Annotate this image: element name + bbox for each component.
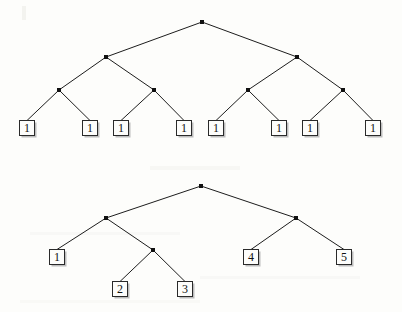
tree-leaf-node: 1 — [303, 121, 320, 138]
tree-internal-node — [151, 248, 155, 252]
tree-leaf-node: 1 — [83, 121, 100, 138]
tree-edge — [343, 90, 373, 121]
tree-internal-node — [294, 216, 298, 220]
tree-edge — [59, 90, 90, 121]
tree-edge — [59, 57, 106, 90]
tree-edge — [121, 90, 154, 121]
tree-leaf-node: 3 — [178, 282, 195, 299]
tree-edge — [27, 90, 59, 121]
tree-edge — [120, 250, 153, 282]
tree-leaf-node: 2 — [113, 282, 130, 299]
tree-leaf-node: 1 — [209, 121, 226, 138]
tree-leaf-node: 1 — [272, 121, 289, 138]
tree-edge — [310, 90, 343, 121]
tree-edge — [106, 218, 153, 250]
tree-leaf-node: 1 — [50, 250, 67, 267]
tree-internal-node — [199, 184, 203, 188]
tree-edge — [57, 218, 106, 250]
leaf-label: 1 — [54, 250, 60, 264]
tree-internal-node — [152, 88, 156, 92]
tree-diagram-figure: 1111111112345 — [0, 0, 402, 312]
leaf-label: 1 — [307, 121, 313, 135]
leaf-label: 3 — [182, 282, 188, 296]
tree-leaf-node: 5 — [337, 250, 354, 267]
tree-edge — [248, 57, 297, 90]
tree-edge — [202, 22, 297, 57]
leaf-label: 1 — [87, 121, 93, 135]
tree-edge — [106, 22, 202, 57]
tree-edge — [106, 186, 201, 218]
leaf-label: 2 — [117, 282, 123, 296]
tree-edge — [153, 250, 185, 282]
tree-internal-node — [104, 216, 108, 220]
tree-canvas: 1111111112345 — [0, 0, 402, 312]
tree-edge — [248, 90, 279, 121]
leaf-boxes-layer: 1111111112345 — [20, 121, 383, 299]
tree-edge — [106, 57, 154, 90]
leaf-label: 1 — [181, 121, 187, 135]
tree-leaf-node: 1 — [177, 121, 194, 138]
leaf-label: 1 — [24, 121, 30, 135]
tree-edge — [296, 218, 344, 250]
leaf-label: 1 — [370, 121, 376, 135]
tree-edge — [201, 186, 296, 218]
leaf-label: 4 — [248, 250, 254, 264]
tree-internal-node — [246, 88, 250, 92]
tree-internal-node — [295, 55, 299, 59]
tree-leaf-node: 1 — [20, 121, 37, 138]
tree-leaf-node: 4 — [244, 250, 261, 267]
tree-internal-node — [341, 88, 345, 92]
tree-leaf-node: 1 — [366, 121, 383, 138]
tree-internal-node — [104, 55, 108, 59]
leaf-label: 5 — [341, 250, 347, 264]
edges-layer — [27, 22, 373, 282]
leaf-label: 1 — [213, 121, 219, 135]
leaf-label: 1 — [276, 121, 282, 135]
tree-internal-node — [200, 20, 204, 24]
leaf-label: 1 — [118, 121, 124, 135]
tree-edge — [297, 57, 343, 90]
tree-leaf-node: 1 — [114, 121, 131, 138]
tree-edge — [216, 90, 248, 121]
tree-internal-node — [57, 88, 61, 92]
internal-nodes-layer — [57, 20, 345, 252]
tree-edge — [154, 90, 184, 121]
tree-edge — [251, 218, 296, 250]
